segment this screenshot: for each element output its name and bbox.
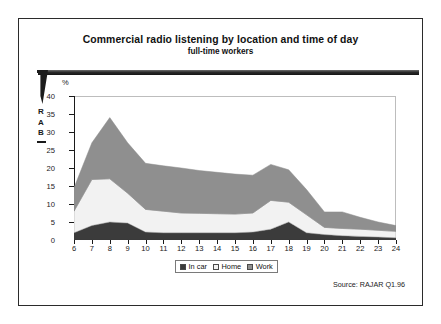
x-axis-tick-mark <box>324 240 325 244</box>
x-axis-tick-mark <box>253 240 254 244</box>
x-axis-tick-mark <box>163 240 164 244</box>
legend-item-home[interactable]: Home <box>213 263 241 271</box>
x-axis-tick-mark <box>217 240 218 244</box>
plot-area: % 0510152025303540 678910111213141516171… <box>58 88 402 288</box>
y-axis-tick-label: 15 <box>15 182 55 191</box>
legend-item-in-car[interactable]: In car <box>180 263 207 271</box>
legend-swatch-in-car <box>180 264 186 270</box>
y-axis-tick-mark <box>69 132 74 133</box>
x-axis-tick-mark <box>92 240 93 244</box>
x-axis-tick-mark <box>378 240 379 244</box>
y-axis-tick-mark <box>69 114 74 115</box>
chart-legend: In carHomeWork <box>175 260 278 273</box>
y-axis-tick-label: 5 <box>15 218 55 227</box>
y-axis-tick-mark <box>69 150 74 151</box>
y-axis-tick-label: 0 <box>15 236 55 245</box>
page-title: Commercial radio listening by location a… <box>18 33 423 46</box>
y-axis-tick-mark <box>69 96 74 97</box>
y-axis-tick-mark <box>69 222 74 223</box>
stacked-area-series <box>74 96 396 240</box>
x-axis-tick-mark <box>342 240 343 244</box>
legend-label: In car <box>189 263 207 271</box>
x-axis-tick-mark <box>110 240 111 244</box>
y-axis-tick-label: 25 <box>15 146 55 155</box>
legend-swatch-work <box>247 264 253 270</box>
x-axis-tick-mark <box>235 240 236 244</box>
x-axis-tick-mark <box>271 240 272 244</box>
legend-label: Home <box>221 263 241 271</box>
x-axis-tick-mark <box>74 240 75 244</box>
brand-rule <box>38 70 419 75</box>
y-axis-tick-mark <box>69 168 74 169</box>
y-axis-tick-label: 40 <box>15 92 55 101</box>
x-axis-tick-mark <box>181 240 182 244</box>
page-subtitle: full-time workers <box>18 47 423 57</box>
x-axis-tick-mark <box>307 240 308 244</box>
title-block: Commercial radio listening by location a… <box>18 33 423 57</box>
y-axis-tick-label: 30 <box>15 128 55 137</box>
x-axis-tick-mark <box>360 240 361 244</box>
y-axis-tick-label: 20 <box>15 164 55 173</box>
chart-page: Commercial radio listening by location a… <box>0 0 441 324</box>
y-axis-tick-mark <box>69 186 74 187</box>
x-axis-tick-mark <box>199 240 200 244</box>
x-axis-tick-mark <box>396 240 397 244</box>
source-note: Source: RAJAR Q1.96 <box>240 280 405 289</box>
y-axis-tick-label: 10 <box>15 200 55 209</box>
x-axis-tick-mark <box>289 240 290 244</box>
legend-swatch-home <box>213 264 219 270</box>
legend-item-work[interactable]: Work <box>247 263 273 271</box>
y-axis-unit-label: % <box>62 78 69 87</box>
y-axis-tick-label: 35 <box>15 110 55 119</box>
rab-underline <box>37 141 46 143</box>
x-axis-tick-label: 24 <box>386 244 406 253</box>
x-axis-tick-mark <box>128 240 129 244</box>
x-axis-tick-mark <box>146 240 147 244</box>
legend-label: Work <box>256 263 273 271</box>
y-axis-tick-mark <box>69 204 74 205</box>
